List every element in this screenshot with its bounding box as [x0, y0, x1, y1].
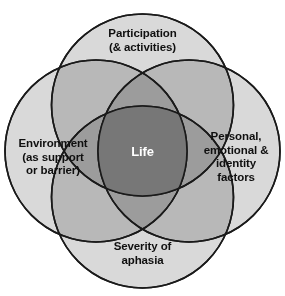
venn-label-life: Life: [0, 144, 285, 159]
venn-label-participation: Participation (& activities): [0, 27, 285, 54]
venn-label-severity: Severity of aphasia: [0, 240, 285, 267]
venn-diagram: Participation (& activities) Environment…: [0, 0, 285, 296]
